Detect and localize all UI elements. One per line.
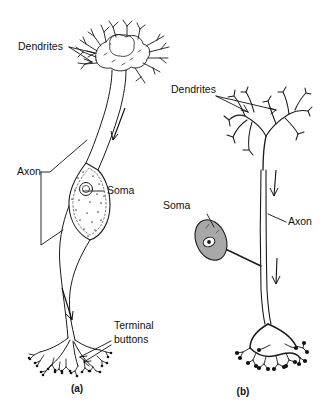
panel-a-terminal-buttons-label-line2: buttons bbox=[114, 333, 148, 345]
neuron-diagram-figure: Dendrites Axon Soma Terminal buttons Den… bbox=[0, 0, 322, 418]
panel-a-soma-label: Soma bbox=[107, 184, 135, 196]
panel-b-axon-label: Axon bbox=[288, 215, 312, 227]
panel-b-terminal-buttons bbox=[235, 324, 309, 371]
panel-a-dendrites-leader bbox=[69, 47, 95, 64]
panel-b-dendrites-label: Dendrites bbox=[171, 83, 216, 95]
panel-b-dendrite-tree bbox=[263, 136, 266, 170]
neuron-diagram-canvas: Dendrites Axon Soma Terminal buttons Den… bbox=[0, 0, 322, 418]
panel-a-terminal-buttons bbox=[28, 338, 113, 377]
panel-a-flow-arrow-lower bbox=[62, 288, 73, 320]
panel-b-dendrite-branches bbox=[224, 87, 312, 155]
panel-a-flow-arrow-upper bbox=[111, 108, 125, 140]
panel-b-axon-leader bbox=[268, 214, 286, 222]
panel-b-flow-arrow-upper bbox=[270, 170, 278, 196]
panel-a-terminal-bulb-cluster bbox=[28, 352, 113, 378]
panel-b-flow-arrow-lower bbox=[272, 258, 280, 284]
panel-b-dendrites-leader bbox=[216, 96, 276, 114]
panel-b-axon bbox=[260, 170, 271, 324]
panel-b-soma bbox=[189, 215, 261, 266]
panel-b-caption: (b) bbox=[237, 386, 250, 397]
panel-b-neuron bbox=[189, 87, 312, 371]
panel-a-soma bbox=[69, 163, 110, 240]
panel-a-terminal-buttons-label-line1: Terminal bbox=[114, 319, 154, 331]
panel-a-axon-label: Axon bbox=[17, 165, 41, 177]
panel-a-dendrites-label: Dendrites bbox=[18, 40, 63, 52]
panel-b-soma-label: Soma bbox=[163, 199, 191, 211]
panel-a-caption: (a) bbox=[71, 383, 83, 394]
